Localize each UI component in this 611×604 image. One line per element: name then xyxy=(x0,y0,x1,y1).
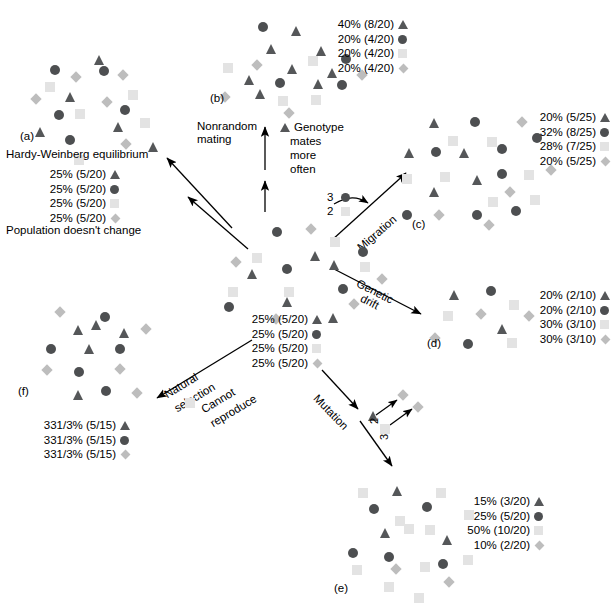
circle-individual xyxy=(100,312,110,322)
legend-percent: 10% (2/20) xyxy=(452,538,530,553)
legend-percent: 25% (5/20) xyxy=(452,509,530,524)
square-individual xyxy=(507,338,517,348)
circle-icon xyxy=(534,512,543,521)
square-individual xyxy=(128,90,138,100)
triangle-individual xyxy=(472,175,482,185)
circle-icon xyxy=(312,330,321,339)
square-individual xyxy=(140,118,150,128)
legend-percent: 25% (5/20) xyxy=(28,182,106,197)
legend-row: 331/3% (5/15) xyxy=(38,433,131,448)
circle-individual xyxy=(497,169,507,179)
diamond-individual xyxy=(101,96,112,107)
legend-row: 50% (10/20) xyxy=(452,523,545,538)
triangle-individual xyxy=(404,148,414,158)
diamond-individual xyxy=(390,563,401,574)
panel-label-f: (f) xyxy=(18,385,29,397)
circle-individual xyxy=(74,367,84,377)
triangle-individual xyxy=(73,390,83,400)
diamond-icon xyxy=(313,359,323,369)
circle-individual xyxy=(431,147,441,157)
triangle-individual xyxy=(266,44,276,54)
triangle-individual xyxy=(328,313,338,323)
square-icon xyxy=(110,199,119,208)
triangle-individual xyxy=(73,325,83,335)
population-f xyxy=(38,302,163,402)
triangle-individual xyxy=(429,118,439,128)
square-individual xyxy=(330,237,340,247)
triangle-individual xyxy=(429,187,439,197)
legend-row: 20% (4/20) xyxy=(316,61,409,76)
circle-individual xyxy=(115,344,125,354)
legend-row: 20% (4/20) xyxy=(316,32,409,47)
legend-percent: 20% (2/10) xyxy=(518,303,596,318)
diamond-individual xyxy=(443,576,454,587)
legend-percent: 50% (10/20) xyxy=(452,523,530,538)
square-individual xyxy=(440,172,450,182)
diamond-individual xyxy=(117,69,128,80)
nonrandom-mating-label: Nonrandom mating xyxy=(197,120,257,146)
square-individual xyxy=(488,197,498,207)
legend-percent: 20% (4/20) xyxy=(316,32,394,47)
square-individual xyxy=(436,488,446,498)
legend-percent: 25% (5/20) xyxy=(230,356,308,371)
diamond-icon xyxy=(601,157,611,167)
triangle-individual xyxy=(65,92,75,102)
circle-individual xyxy=(384,552,394,562)
triangle-individual xyxy=(442,535,452,545)
diamond-individual xyxy=(70,71,81,82)
legend-row: 25% (5/20) xyxy=(28,211,121,226)
triangle-individual xyxy=(94,55,104,65)
legend-percent: 30% (3/10) xyxy=(518,332,596,347)
triangle-individual xyxy=(255,89,265,99)
legend-percent: 32% (8/25) xyxy=(518,125,596,140)
diamond-individual xyxy=(54,306,65,317)
triangle-individual xyxy=(91,320,101,330)
circle-individual xyxy=(337,80,347,90)
circle-individual xyxy=(275,78,285,88)
square-individual xyxy=(420,562,430,572)
genotype-note-line-1: Genotype xyxy=(294,120,344,134)
circle-individual xyxy=(402,210,412,220)
legend-percent: 25% (5/20) xyxy=(28,167,106,182)
diamond-individual xyxy=(131,387,142,398)
circle-individual xyxy=(120,105,130,115)
legend-row: 10% (2/20) xyxy=(452,538,545,553)
circle-individual xyxy=(369,504,379,514)
legend-percent: 25% (5/20) xyxy=(230,341,308,356)
square-individual xyxy=(402,174,412,184)
diamond-individual xyxy=(475,308,486,319)
mutation-triangle-count: 2 xyxy=(368,418,380,424)
panel-label-d: (d) xyxy=(427,337,441,349)
arrow-mutation-triangle-to-diamond xyxy=(376,400,397,415)
diamond-icon xyxy=(121,450,131,460)
square-individual xyxy=(487,137,497,147)
legend-percent: 20% (4/20) xyxy=(316,46,394,61)
square-individual xyxy=(443,311,453,321)
square-individual xyxy=(414,593,424,603)
circle-individual xyxy=(272,227,282,237)
population-a xyxy=(12,25,172,165)
legend-row: 20% (5/25) xyxy=(518,110,611,125)
diamond-individual xyxy=(504,186,515,197)
circle-individual xyxy=(258,22,268,32)
square-individual xyxy=(384,582,394,592)
legend-row: 28% (7/25) xyxy=(518,139,611,154)
circle-individual xyxy=(422,502,432,512)
square-individual xyxy=(311,95,321,105)
migration-circle-count: 3 xyxy=(327,190,333,204)
legend-row: 20% (4/20) xyxy=(316,46,409,61)
triangle-individual xyxy=(244,75,254,85)
triangle-individual xyxy=(119,328,129,338)
square-icon xyxy=(398,49,407,58)
diamond-icon xyxy=(535,541,545,551)
circle-icon xyxy=(120,436,129,445)
legend-row: 25% (5/20) xyxy=(452,509,545,524)
legend-start: 25% (5/20)25% (5/20)25% (5/20)25% (5/20) xyxy=(230,312,323,370)
legend-row: 30% (3/10) xyxy=(518,317,611,332)
legend-row: 25% (5/20) xyxy=(230,341,323,356)
diamond-individual xyxy=(305,223,316,234)
genotype-mates-more-often-note: Genotype mates more often xyxy=(276,120,344,176)
diamond-individual xyxy=(483,219,494,230)
square-individual xyxy=(530,195,540,205)
